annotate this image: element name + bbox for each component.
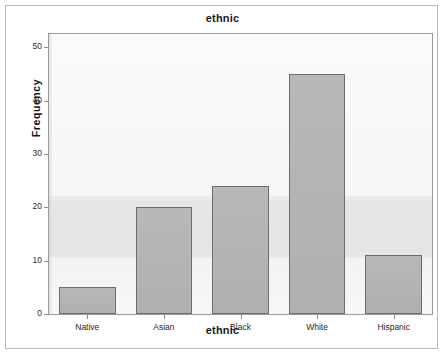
y-tick-mark — [44, 261, 49, 262]
y-tick-mark — [44, 101, 49, 102]
chart-title: ethnic — [6, 12, 439, 24]
chart-window: ethnic 01020304050 NativeAsianBlackWhite… — [5, 5, 438, 349]
x-tick-mark — [241, 314, 242, 319]
x-tick-mark — [87, 314, 88, 319]
bar-hispanic — [365, 255, 422, 314]
x-tick-mark — [317, 314, 318, 319]
bar-black — [212, 186, 269, 314]
y-tick-mark — [44, 314, 49, 315]
x-tick-mark — [164, 314, 165, 319]
y-tick-label: 10 — [33, 255, 42, 265]
y-axis-title: Frequency — [30, 48, 42, 168]
x-tick-mark — [394, 314, 395, 319]
x-axis-title: ethnic — [6, 324, 439, 336]
y-tick-label: 20 — [33, 201, 42, 211]
bar-native — [59, 287, 116, 314]
plot-area: 01020304050 NativeAsianBlackWhiteHispani… — [48, 33, 433, 315]
bar-white — [289, 74, 346, 314]
y-tick-mark — [44, 207, 49, 208]
bar-asian — [136, 207, 193, 314]
y-tick-mark — [44, 47, 49, 48]
y-tick-label: 0 — [37, 308, 42, 318]
y-tick-mark — [44, 154, 49, 155]
